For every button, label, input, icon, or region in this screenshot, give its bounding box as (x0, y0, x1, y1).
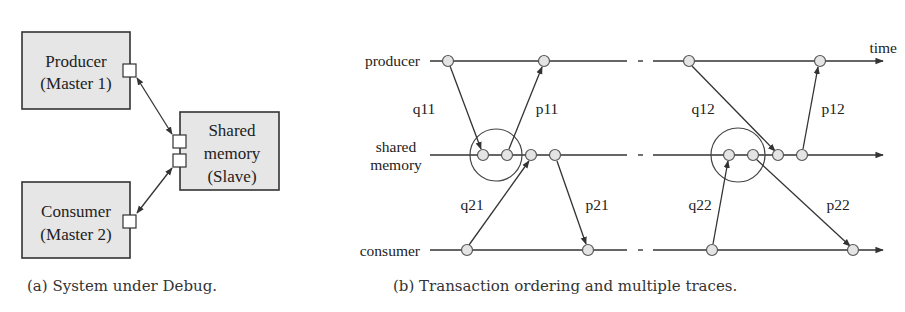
shared-memory-port-2 (173, 154, 186, 167)
shared-memory-title: Shared (208, 121, 256, 140)
producer-event-node (443, 56, 454, 67)
panel-a-system-diagram: Producer (Master 1) Shared memory (Slave… (22, 32, 279, 295)
producer-shared-link-arrow (137, 78, 172, 134)
q12-label: q12 (691, 100, 714, 117)
p21-label: p21 (585, 196, 608, 213)
consumer-subtitle: (Master 2) (40, 225, 111, 244)
q22-arrow (713, 161, 728, 244)
panel-b-timeline-diagram: producer shared memory consumer time (360, 39, 897, 295)
shared-event-node (797, 150, 808, 161)
q11-arrow (450, 66, 481, 149)
shared-memory-subtitle: memory (204, 144, 261, 163)
shared-memory-role: (Slave) (207, 167, 256, 186)
producer-title: Producer (45, 52, 107, 71)
q11-label: q11 (413, 100, 436, 117)
shared-axis-label-line1: shared (376, 138, 417, 155)
q22-label: q22 (688, 196, 711, 213)
caption-a: (a) System under Debug. (27, 277, 217, 295)
shared-event-node (502, 150, 513, 161)
figure: Producer (Master 1) Shared memory (Slave… (0, 0, 905, 312)
producer-subtitle: (Master 1) (40, 74, 111, 93)
p12-label: p12 (821, 100, 844, 117)
consumer-title: Consumer (41, 202, 111, 221)
shared-event-node (478, 150, 489, 161)
consumer-block: Consumer (Master 2) (22, 182, 136, 258)
q21-label: q21 (460, 196, 483, 213)
consumer-port (123, 215, 136, 228)
producer-event-node (815, 56, 826, 67)
shared-memory-port-1 (173, 135, 186, 148)
producer-block: Producer (Master 1) (22, 32, 136, 109)
producer-event-node (684, 56, 695, 67)
shared-memory-block: Shared memory (Slave) (173, 112, 279, 190)
consumer-axis-label: consumer (360, 242, 421, 259)
p22-label: p22 (826, 196, 849, 213)
producer-event-node (539, 56, 550, 67)
producer-axis-label: producer (365, 52, 421, 69)
caption-b: (b) Transaction ordering and multiple tr… (393, 277, 737, 295)
shared-event-node (748, 150, 759, 161)
consumer-event-node (707, 245, 718, 256)
consumer-event-node (583, 245, 594, 256)
producer-port (123, 64, 136, 77)
shared-event-node (550, 150, 561, 161)
consumer-event-node (848, 245, 859, 256)
time-axis-label: time (869, 39, 897, 56)
p12-arrow (803, 67, 818, 149)
shared-axis-label-line2: memory (370, 156, 422, 173)
consumer-event-node (462, 245, 473, 256)
consumer-shared-link-arrow (137, 168, 172, 213)
p21-arrow (557, 161, 586, 244)
shared-event-node (773, 150, 784, 161)
shared-event-node (526, 150, 537, 161)
p11-label: p11 (536, 100, 559, 117)
shared-event-node (724, 150, 735, 161)
